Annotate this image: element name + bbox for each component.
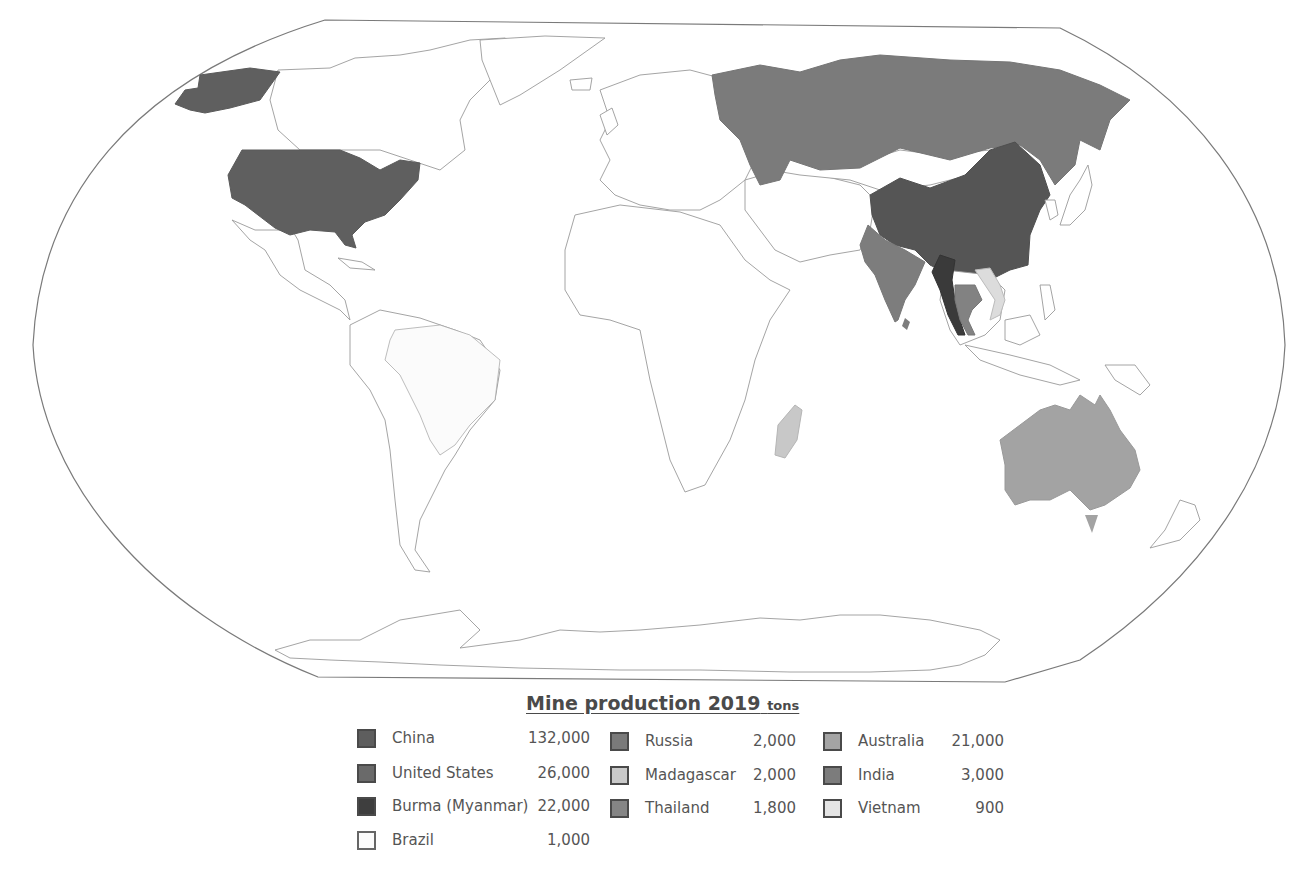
borneo	[1005, 315, 1040, 345]
swatch-brazil	[357, 831, 376, 850]
legend-country: China	[392, 729, 435, 747]
legend-value: 900	[975, 799, 1004, 817]
legend-unit: tons	[767, 698, 799, 713]
swatch-australia	[823, 732, 842, 751]
legend-country: Madagascar	[645, 766, 736, 784]
africa	[565, 205, 790, 492]
legend-value: 26,000	[538, 764, 591, 782]
legend-value: 1,800	[753, 799, 796, 817]
legend-title: Mine production 2019 tons	[526, 692, 799, 714]
new-zealand	[1150, 500, 1200, 548]
swatch-china	[357, 729, 376, 748]
legend-value: 22,000	[538, 797, 591, 815]
swatch-madagascar	[610, 766, 629, 785]
swatch-vietnam	[823, 799, 842, 818]
country-tasmania	[1085, 515, 1098, 533]
swatch-thailand	[610, 799, 629, 818]
legend-value: 21,000	[952, 732, 1005, 750]
swatch-india	[823, 766, 842, 785]
country-madagascar	[775, 405, 802, 458]
iceland	[570, 78, 592, 90]
indonesia	[965, 345, 1080, 385]
legend-value: 132,000	[528, 729, 590, 747]
legend-value: 2,000	[753, 766, 796, 784]
legend-country: Brazil	[392, 831, 434, 849]
legend-item-australia: Australia 21,000	[823, 730, 1008, 752]
swatch-russia	[610, 732, 629, 751]
swatch-burma	[357, 797, 376, 816]
greenland	[480, 36, 605, 105]
country-alaska	[175, 68, 280, 113]
legend-item-vietnam: Vietnam 900	[823, 797, 1008, 819]
legend-country: Australia	[858, 732, 924, 750]
legend-value: 1,000	[547, 831, 590, 849]
world-map	[0, 0, 1315, 690]
country-australia	[1000, 395, 1140, 510]
philippines	[1040, 285, 1055, 320]
legend-item-madagascar: Madagascar 2,000	[610, 764, 800, 786]
legend-item-thailand: Thailand 1,800	[610, 797, 800, 819]
country-sri-lanka	[902, 318, 910, 330]
legend-value: 3,000	[961, 766, 1004, 784]
legend-item-united-states: United States 26,000	[357, 762, 592, 784]
legend-country: United States	[392, 764, 494, 782]
legend-country: India	[858, 766, 895, 784]
legend-item-china: China 132,000	[357, 727, 592, 749]
legend-item-russia: Russia 2,000	[610, 730, 800, 752]
cuba	[338, 258, 375, 270]
antarctica	[275, 610, 1000, 672]
legend-item-brazil: Brazil 1,000	[357, 829, 592, 851]
papua	[1105, 365, 1150, 395]
legend-country: Thailand	[645, 799, 709, 817]
legend-country: Burma (Myanmar)	[392, 797, 528, 815]
swatch-united-states	[357, 764, 376, 783]
legend-value: 2,000	[753, 732, 796, 750]
korea	[1045, 200, 1058, 220]
legend-item-india: India 3,000	[823, 764, 1008, 786]
legend-country: Vietnam	[858, 799, 921, 817]
legend-country: Russia	[645, 732, 693, 750]
legend-item-burma: Burma (Myanmar) 22,000	[357, 795, 592, 817]
